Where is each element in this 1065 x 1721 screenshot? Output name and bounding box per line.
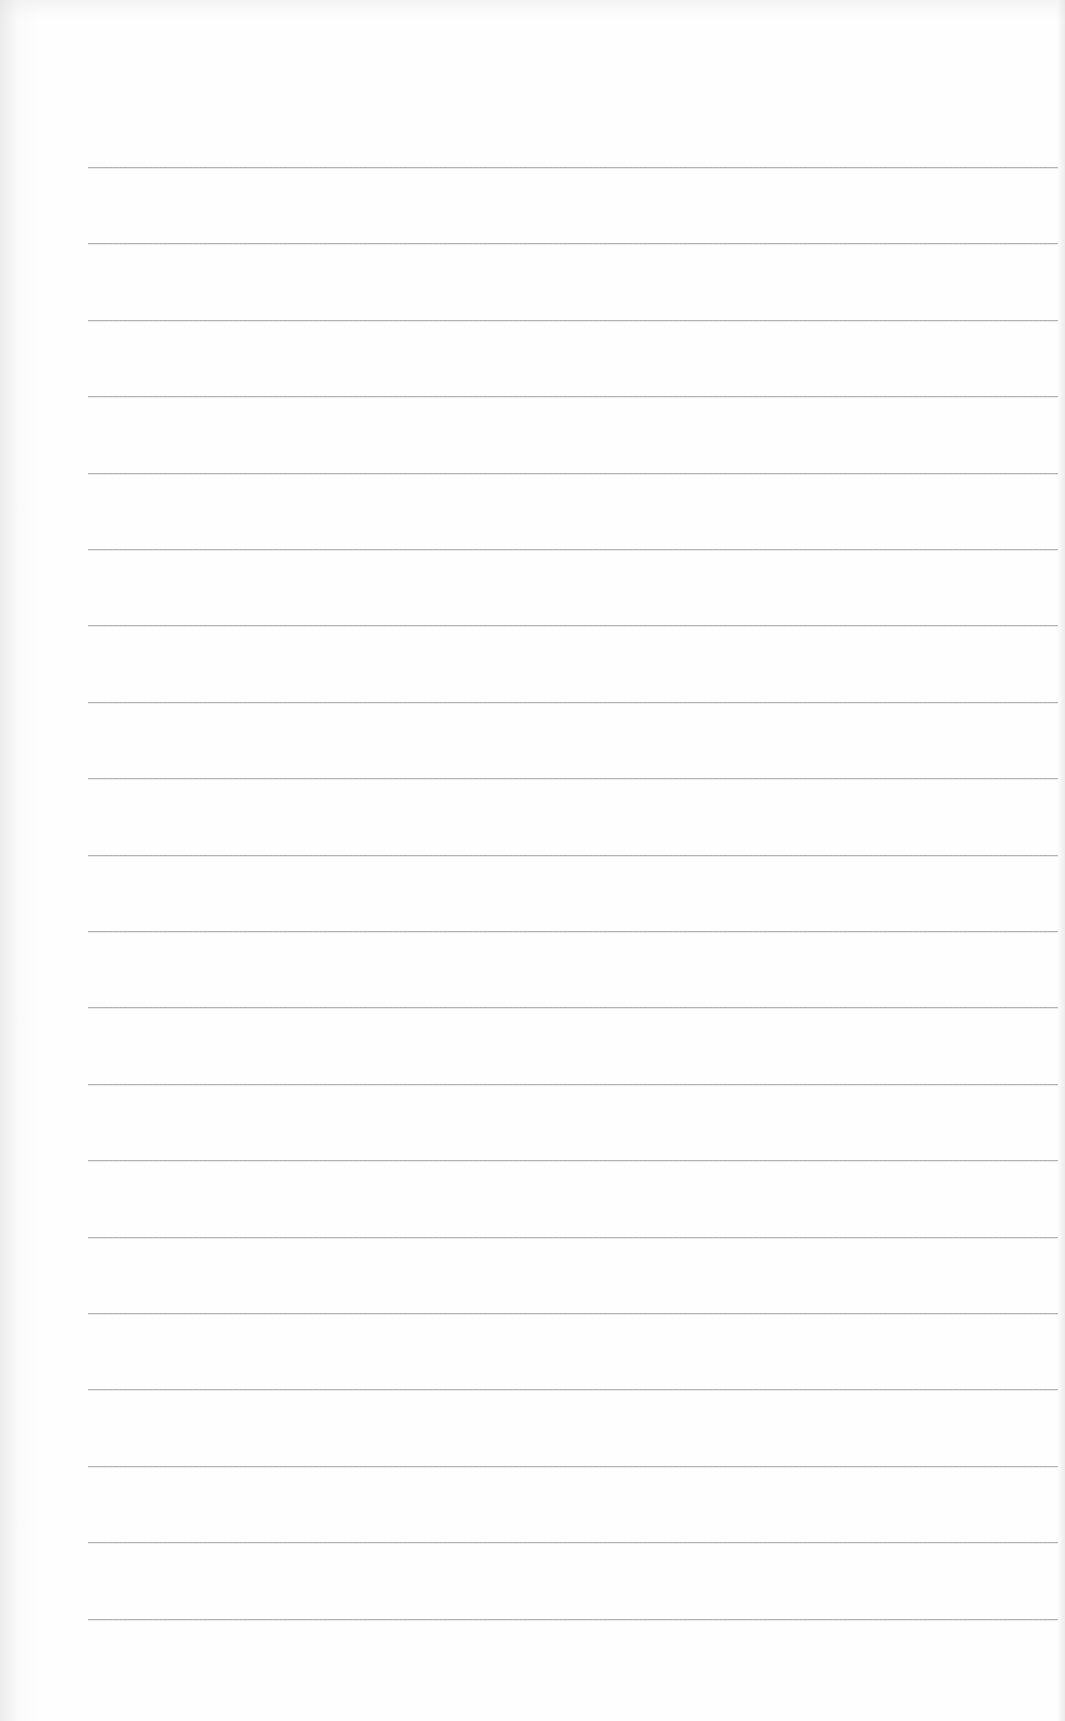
ruled-line xyxy=(88,473,1058,474)
ruled-line xyxy=(88,1389,1058,1390)
ruled-line xyxy=(88,1237,1058,1238)
ruled-line xyxy=(88,931,1058,932)
ruled-line xyxy=(88,702,1058,703)
ruled-line xyxy=(88,1313,1058,1314)
ruled-line xyxy=(88,855,1058,856)
ruled-paper-sheet xyxy=(0,0,1065,1721)
ruled-line xyxy=(88,1007,1058,1008)
ruled-line xyxy=(88,1084,1058,1085)
ruled-line xyxy=(88,778,1058,779)
ruled-line xyxy=(88,1466,1058,1467)
ruled-line xyxy=(88,396,1058,397)
ruled-line xyxy=(88,243,1058,244)
ruled-line xyxy=(88,1542,1058,1543)
ruled-line xyxy=(88,1619,1058,1620)
ruled-line xyxy=(88,1160,1058,1161)
ruled-line xyxy=(88,167,1058,168)
ruled-line xyxy=(88,549,1058,550)
ruled-line xyxy=(88,625,1058,626)
ruled-line xyxy=(88,320,1058,321)
